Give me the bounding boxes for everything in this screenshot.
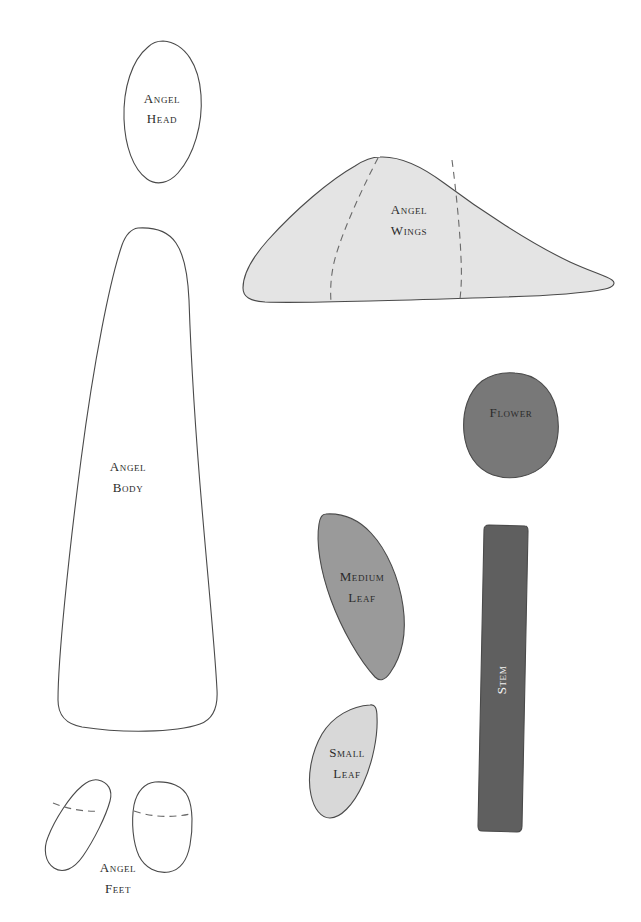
piece-medium-leaf[interactable]: Medium Leaf bbox=[318, 514, 404, 680]
medium-leaf-label-line1: Medium bbox=[340, 569, 385, 584]
piece-flower[interactable]: Flower bbox=[464, 373, 559, 478]
flower-label: Flower bbox=[490, 405, 533, 420]
small-leaf-outline bbox=[309, 705, 377, 818]
pattern-sheet: Angel Head Angel Body Angel Wings Flower… bbox=[0, 0, 641, 922]
piece-angel-head[interactable]: Angel Head bbox=[124, 41, 201, 183]
small-leaf-label-line1: Small bbox=[329, 745, 365, 760]
angel-head-label-line2: Head bbox=[147, 111, 177, 126]
angel-foot-left-outline bbox=[45, 780, 111, 871]
stem-label: Stem bbox=[494, 666, 509, 695]
angel-wings-outline bbox=[243, 157, 614, 302]
angel-wings-label-line1: Angel bbox=[391, 202, 427, 217]
angel-feet-label-line1: Angel bbox=[100, 860, 136, 875]
angel-foot-right-outline bbox=[133, 782, 192, 873]
flower-outline bbox=[464, 373, 559, 478]
medium-leaf-label-line2: Leaf bbox=[348, 590, 375, 605]
piece-stem[interactable]: Stem bbox=[478, 525, 528, 832]
angel-body-label-line2: Body bbox=[113, 480, 144, 495]
angel-body-label-line1: Angel bbox=[110, 459, 146, 474]
angel-wings-label-line2: Wings bbox=[391, 223, 427, 238]
piece-small-leaf[interactable]: Small Leaf bbox=[309, 705, 377, 818]
piece-angel-wings[interactable]: Angel Wings bbox=[243, 157, 614, 302]
small-leaf-label-line2: Leaf bbox=[333, 766, 360, 781]
piece-angel-body[interactable]: Angel Body bbox=[58, 228, 217, 731]
angel-head-label-line1: Angel bbox=[144, 91, 180, 106]
angel-feet-label-line2: Feet bbox=[105, 881, 131, 896]
piece-angel-feet[interactable]: Angel Feet bbox=[45, 780, 192, 896]
pattern-canvas: Angel Head Angel Body Angel Wings Flower… bbox=[0, 0, 641, 922]
